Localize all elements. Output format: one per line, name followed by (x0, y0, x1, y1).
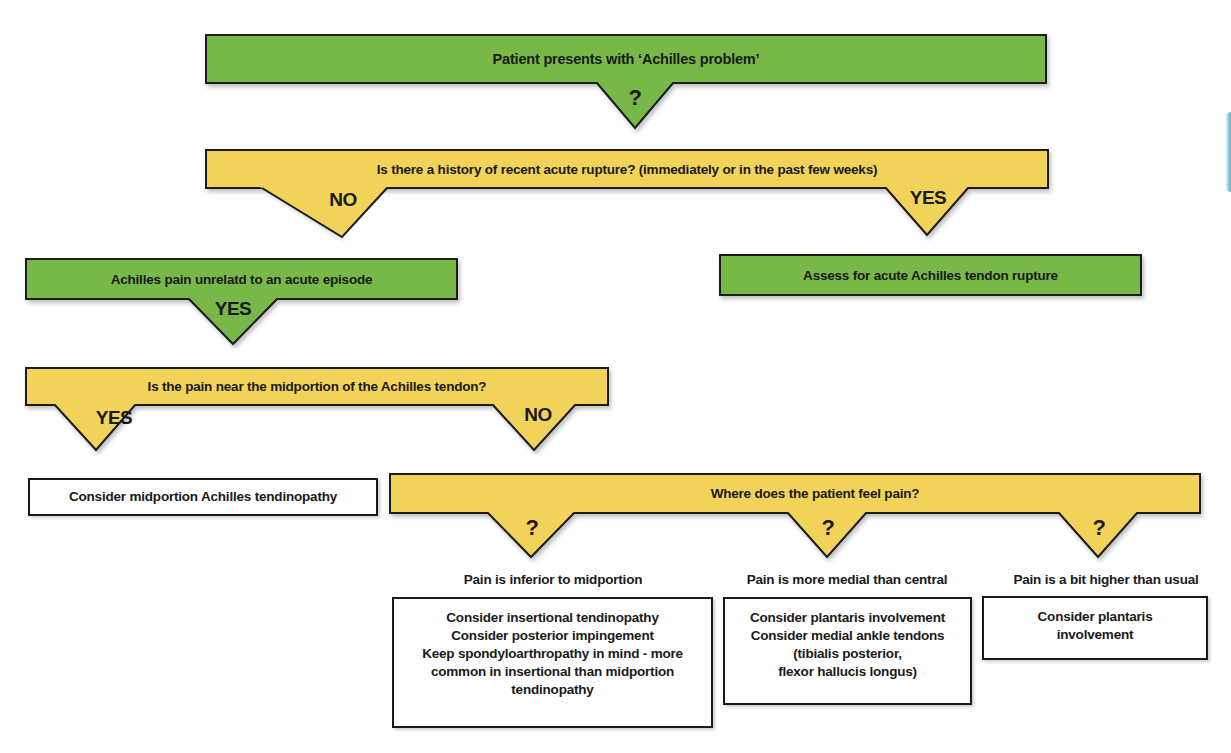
outcome-line: Consider posterior impingement (451, 627, 654, 645)
rupture-yes-label: YES (900, 187, 956, 209)
midportion-question-node: Is the pain near the midportion of the A… (26, 368, 608, 405)
start-node-label: Patient presents with ‘Achilles problem’ (493, 51, 760, 67)
midportion-result-label: Consider midportion Achilles tendinopath… (69, 488, 337, 506)
location-question-label: Where does the patient feel pain? (711, 486, 920, 501)
unrelated-pain-label: Achilles pain unrelatd to an acute episo… (111, 272, 373, 287)
midportion-question-label: Is the pain near the midportion of the A… (148, 379, 487, 394)
outcome-line: Keep spondyloarthropathy in mind - more (422, 645, 683, 663)
outcome-heading-higher: Pain is a bit higher than usual (982, 572, 1230, 587)
outcome-line: Consider plantaris (1038, 608, 1153, 626)
midportion-no-label: NO (513, 404, 563, 426)
outcome-line: Consider insertional tendinopathy (446, 609, 658, 627)
outcome-line: flexor hallucis longus) (778, 663, 917, 681)
outcome-line: (tibialis posterior, (793, 645, 902, 663)
start-node: Patient presents with ‘Achilles problem’ (206, 35, 1046, 83)
unrelated-pain-node: Achilles pain unrelatd to an acute episo… (26, 259, 457, 299)
outcome-heading-medial: Pain is more medial than central (722, 572, 972, 587)
outcome-line: common in insertional than midportion (431, 663, 674, 681)
rupture-question-label: Is there a history of recent acute ruptu… (377, 162, 878, 177)
location-question-mark-1: ? (517, 515, 547, 541)
rupture-question-node: Is there a history of recent acute ruptu… (206, 150, 1048, 188)
outcome-line: Consider plantaris involvement (750, 609, 945, 627)
outcome-box-inferior: Consider insertional tendinopathy Consid… (392, 597, 713, 728)
edge-decoration (1225, 112, 1231, 192)
unrelated-yes-label: YES (205, 298, 261, 320)
outcome-box-medial: Consider plantaris involvement Consider … (723, 597, 972, 705)
outcome-line: involvement (1057, 626, 1134, 644)
outcome-box-higher: Consider plantaris involvement (982, 596, 1208, 660)
location-question-mark-2: ? (813, 515, 843, 541)
outcome-line: Consider medial ankle tendons (751, 627, 945, 645)
outcome-line: tendinopathy (511, 681, 593, 699)
assess-rupture-node: Assess for acute Achilles tendon rupture (720, 255, 1141, 295)
rupture-no-label: NO (318, 189, 368, 211)
outcome-heading-inferior: Pain is inferior to midportion (394, 572, 712, 587)
location-question-node: Where does the patient feel pain? (390, 474, 1200, 513)
location-question-mark-3: ? (1084, 515, 1114, 541)
start-question-mark: ? (620, 85, 650, 111)
midportion-result-box: Consider midportion Achilles tendinopath… (28, 478, 378, 516)
assess-rupture-label: Assess for acute Achilles tendon rupture (803, 268, 1058, 283)
midportion-yes-label: YES (86, 407, 142, 429)
